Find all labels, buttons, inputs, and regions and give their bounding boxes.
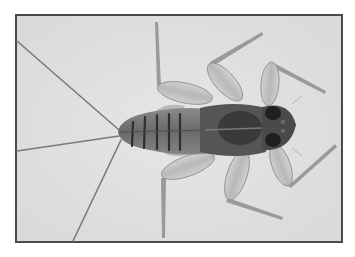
eye-top bbox=[265, 106, 281, 120]
eye-bottom bbox=[265, 133, 281, 147]
thorax bbox=[200, 104, 266, 156]
insect-photo: Mayfly nymph, dorsal view bbox=[0, 0, 355, 257]
